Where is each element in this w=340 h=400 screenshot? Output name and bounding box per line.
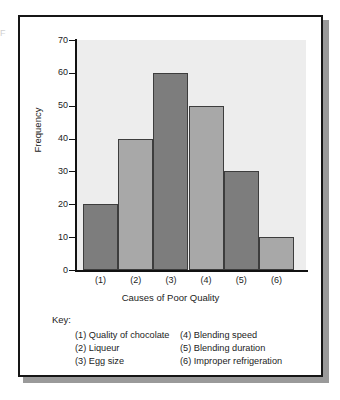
- figure-frame: 010203040506070 Frequency (1)(2)(3)(4)(5…: [18, 15, 323, 377]
- x-axis-tick-label: (6): [259, 275, 294, 285]
- y-axis-tick: [69, 204, 76, 205]
- x-axis-line: [75, 270, 308, 272]
- y-axis-tick: [69, 237, 76, 238]
- x-axis-tick-label: (3): [153, 275, 188, 285]
- key-column-left: (1) Quality of chocolate(2) Liqueur(3) E…: [75, 329, 187, 368]
- x-axis-tick-label: (5): [224, 275, 259, 285]
- y-axis-tick-label: 40: [46, 134, 68, 143]
- key-item: (4) Blending speed: [180, 329, 325, 342]
- x-axis-tick-label: (4): [189, 275, 224, 285]
- x-axis-tick-label: (1): [83, 275, 118, 285]
- plot-area: [76, 40, 306, 270]
- x-axis-title: Causes of Poor Quality: [20, 292, 321, 303]
- key-item: (6) Improper refrigeration: [180, 355, 325, 368]
- y-axis-tick: [69, 139, 76, 140]
- bar: [224, 171, 259, 270]
- x-axis-tick-label: (2): [118, 275, 153, 285]
- y-axis-tick-label: 10: [46, 233, 68, 242]
- y-axis-tick: [69, 171, 76, 172]
- y-axis-tick: [69, 106, 76, 107]
- key-label: Key:: [52, 314, 71, 325]
- y-axis-tick: [69, 270, 76, 271]
- bar: [259, 237, 294, 270]
- y-axis-tick-label: 70: [46, 36, 68, 45]
- bar: [153, 73, 188, 270]
- y-axis-tick-label: 30: [46, 167, 68, 176]
- bar: [118, 139, 153, 270]
- y-axis-title: Frequency: [33, 100, 43, 160]
- y-axis-tick: [69, 40, 76, 41]
- y-axis-tick-label: 20: [46, 200, 68, 209]
- key-item: (2) Liqueur: [75, 342, 187, 355]
- key-column-right: (4) Blending speed(5) Blending duration(…: [180, 329, 325, 368]
- key-item: (5) Blending duration: [180, 342, 325, 355]
- y-axis-tick-label: 50: [46, 101, 68, 110]
- key-item: (1) Quality of chocolate: [75, 329, 187, 342]
- key-item: (3) Egg size: [75, 355, 187, 368]
- page-edge-artifact: F: [0, 28, 10, 50]
- figure-inner: 010203040506070 Frequency (1)(2)(3)(4)(5…: [20, 17, 321, 375]
- y-axis-tick: [69, 73, 76, 74]
- bar: [189, 106, 224, 270]
- bar: [83, 204, 118, 270]
- y-axis-tick-label: 0: [46, 266, 68, 275]
- y-axis-tick-label: 60: [46, 68, 68, 77]
